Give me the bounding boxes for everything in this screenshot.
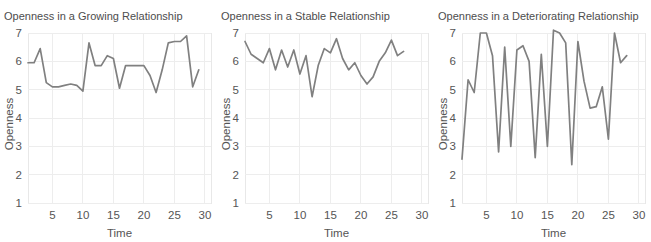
y-tick-label: 7 (233, 27, 239, 39)
y-tick-label: 2 (450, 169, 456, 181)
y-tick-label: 4 (16, 112, 23, 124)
y-tick-label: 1 (233, 197, 239, 209)
chart-panel-1: Openness in a Growing Relationship123456… (0, 0, 217, 242)
y-tick-label: 4 (450, 112, 457, 124)
chart-panel-3: Openness in a Deteriorating Relationship… (434, 0, 651, 242)
line-chart-2: Openness in a Stable Relationship1234567… (217, 0, 434, 242)
x-tick-label: 10 (294, 209, 307, 221)
y-tick-label: 4 (233, 112, 240, 124)
x-axis-title: Time (324, 227, 349, 239)
x-axis-title: Time (541, 227, 566, 239)
y-tick-label: 2 (233, 169, 239, 181)
y-tick-label: 5 (16, 84, 22, 96)
x-tick-label: 10 (77, 209, 90, 221)
x-tick-label: 15 (107, 209, 120, 221)
y-tick-label: 7 (16, 27, 22, 39)
y-tick-label: 1 (450, 197, 456, 209)
x-tick-label: 25 (385, 209, 398, 221)
x-tick-label: 5 (483, 209, 489, 221)
x-tick-label: 5 (266, 209, 272, 221)
y-tick-label: 7 (450, 27, 456, 39)
x-tick-label: 30 (416, 209, 429, 221)
y-tick-label: 5 (233, 84, 239, 96)
x-tick-label: 15 (324, 209, 337, 221)
x-tick-label: 25 (602, 209, 615, 221)
x-tick-label: 25 (168, 209, 181, 221)
line-chart-3: Openness in a Deteriorating Relationship… (434, 0, 651, 242)
x-tick-label: 20 (138, 209, 151, 221)
y-tick-label: 2 (16, 169, 22, 181)
y-tick-label: 6 (16, 55, 22, 67)
figure-panel-group: Openness in a Growing Relationship123456… (0, 0, 651, 242)
y-tick-label: 5 (450, 84, 456, 96)
line-chart-1: Openness in a Growing Relationship123456… (0, 0, 217, 242)
y-tick-label: 6 (233, 55, 239, 67)
chart-panel-2: Openness in a Stable Relationship1234567… (217, 0, 434, 242)
x-tick-label: 20 (572, 209, 585, 221)
y-axis-title: Openness (437, 98, 449, 151)
chart-title: Openness in a Growing Relationship (4, 10, 183, 22)
x-tick-label: 10 (511, 209, 524, 221)
x-tick-label: 20 (355, 209, 368, 221)
chart-title: Openness in a Stable Relationship (221, 10, 390, 22)
x-tick-label: 30 (199, 209, 212, 221)
x-axis-title: Time (107, 227, 132, 239)
y-tick-label: 3 (450, 140, 456, 152)
y-axis-title: Openness (3, 98, 15, 151)
x-tick-label: 15 (541, 209, 554, 221)
y-axis-title: Openness (220, 98, 232, 151)
y-tick-label: 3 (16, 140, 22, 152)
x-tick-label: 5 (49, 209, 55, 221)
x-tick-label: 30 (633, 209, 646, 221)
y-tick-label: 1 (16, 197, 22, 209)
chart-title: Openness in a Deteriorating Relationship (438, 10, 639, 22)
y-tick-label: 6 (450, 55, 456, 67)
y-tick-label: 3 (233, 140, 239, 152)
